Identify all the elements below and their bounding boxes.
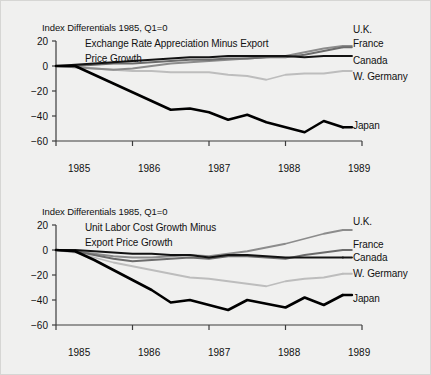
series-label-wgermany-bottom: W. Germany [353, 268, 408, 279]
xtick-label-1985-top: 1985 [68, 163, 90, 174]
series-label-uk-bottom: U.K. [353, 216, 372, 227]
xtick-label-1986-bottom: 1986 [138, 347, 160, 358]
series-label-uk-top: U.K. [353, 24, 372, 35]
xtick-label-1987-bottom: 1987 [208, 347, 230, 358]
chart-note-unit-labor-cost: Index Differentials 1985, Q1=0 [42, 206, 167, 217]
xtick-label-1988-top: 1988 [278, 163, 300, 174]
xtick-label-1987-top: 1987 [208, 163, 230, 174]
ytick-label-neg20-bottom: −20 [22, 270, 48, 281]
ytick-label-20-top: 20 [22, 36, 48, 47]
ytick-label-0-top: 0 [22, 61, 48, 72]
xtick-label-1985-bottom: 1985 [68, 347, 90, 358]
chart-subtitle-line-1-unit-labor-cost: Unit Labor Cost Growth Minus [85, 222, 216, 233]
ytick-label-neg20-top: −20 [22, 86, 48, 97]
chart-subtitle-line-2-unit-labor-cost: Export Price Growth [85, 237, 173, 248]
series-label-japan-top: Japan [353, 120, 380, 131]
ytick-label-neg40-bottom: −40 [22, 295, 48, 306]
series-label-canada-top: Canada [353, 55, 387, 66]
chart-subtitle-line-1-exchange-rate: Exchange Rate Appreciation Minus Export [85, 38, 268, 49]
series-label-france-top: France [353, 38, 384, 49]
ytick-label-neg60-bottom: −60 [22, 320, 48, 331]
chart-panel-exchange-rate: Index Differentials 1985, Q1=0 Exchange … [0, 0, 431, 187]
series-label-canada-bottom: Canada [353, 252, 387, 263]
chart-note-exchange-rate: Index Differentials 1985, Q1=0 [42, 22, 167, 33]
ytick-label-20-bottom: 20 [22, 220, 48, 231]
ytick-label-0-bottom: 0 [22, 245, 48, 256]
chart-subtitle-line-2-exchange-rate: Price Growth [85, 53, 142, 64]
xtick-label-1986-top: 1986 [138, 163, 160, 174]
xtick-label-1989-top: 1989 [348, 163, 370, 174]
ytick-label-neg60-top: −60 [22, 136, 48, 147]
ytick-label-neg40-top: −40 [22, 111, 48, 122]
series-line-japan [56, 66, 343, 132]
series-label-france-bottom: France [353, 239, 384, 250]
series-label-wgermany-top: W. Germany [353, 71, 408, 82]
xtick-label-1988-bottom: 1988 [278, 347, 300, 358]
xtick-label-1989-bottom: 1989 [348, 347, 370, 358]
chart-panel-unit-labor-cost: Index Differentials 1985, Q1=0 Unit Labo… [0, 188, 431, 375]
figure-root: Index Differentials 1985, Q1=0 Exchange … [0, 0, 431, 375]
series-label-japan-bottom: Japan [353, 293, 380, 304]
